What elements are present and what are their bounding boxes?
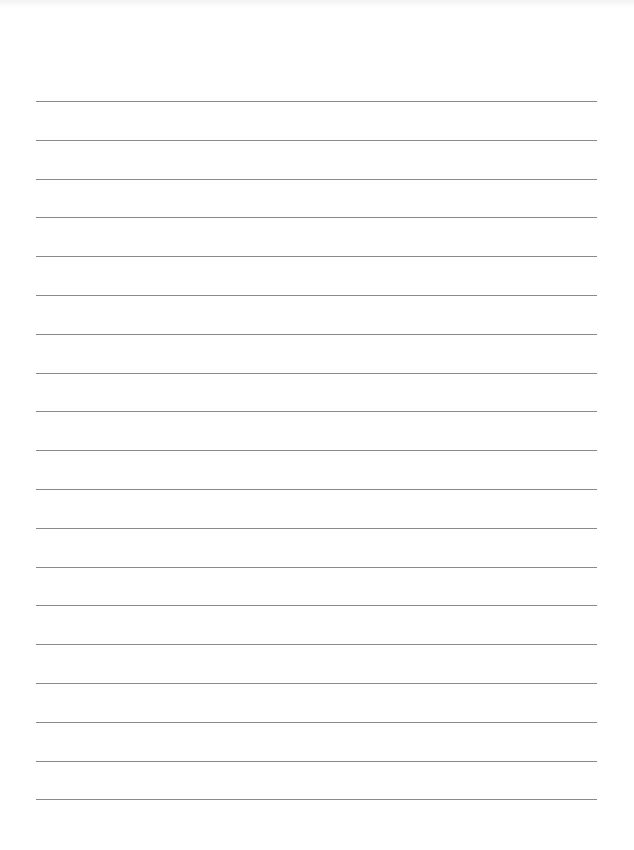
ruled-line [36, 373, 597, 374]
ruled-line [36, 489, 597, 490]
ruled-line [36, 256, 597, 257]
ruled-line [36, 528, 597, 529]
ruled-line [36, 334, 597, 335]
ruled-line [36, 101, 597, 102]
ruled-line [36, 605, 597, 606]
ruled-line [36, 567, 597, 568]
ruled-line [36, 799, 597, 800]
ruled-line [36, 217, 597, 218]
lined-paper-sheet [0, 0, 634, 850]
ruled-line [36, 179, 597, 180]
ruled-line [36, 683, 597, 684]
ruled-line [36, 411, 597, 412]
ruled-line [36, 761, 597, 762]
ruled-line [36, 295, 597, 296]
ruled-line [36, 140, 597, 141]
ruled-line [36, 450, 597, 451]
ruled-line [36, 644, 597, 645]
top-edge-shadow [0, 0, 634, 8]
ruled-line [36, 722, 597, 723]
